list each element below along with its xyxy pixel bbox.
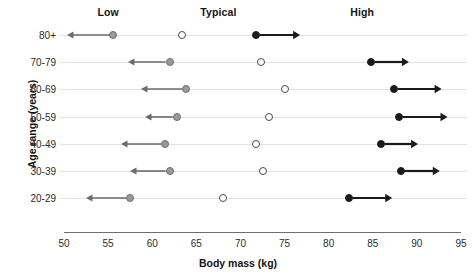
high-marker-40-49 [377,140,385,148]
typical-marker-60-69 [281,85,289,93]
typical-marker-30-39 [259,167,267,175]
typical-marker-40-49 [252,140,260,148]
high-marker-70-79 [367,58,375,66]
low-marker-80plus [109,31,117,39]
low-marker-70-79 [166,58,174,66]
low-marker-40-49 [161,140,169,148]
x-axis-tick-65: 65 [191,238,202,249]
typical-marker-80plus [178,31,186,39]
x-axis-title: Body mass (kg) [0,257,476,269]
high-marker-60-69 [390,85,398,93]
x-axis-tick-80: 80 [323,238,334,249]
body-mass-by-age-chart: LowTypicalHigh Age range (years) 80+70-7… [0,0,476,280]
low-marker-30-39 [166,167,174,175]
typical-marker-70-79 [257,58,265,66]
x-axis-tick-85: 85 [367,238,378,249]
row-gridline [60,198,467,199]
typical-marker-20-29 [219,194,227,202]
x-axis-tick-60: 60 [147,238,158,249]
high-marker-20-29 [345,194,353,202]
low-marker-20-29 [126,194,134,202]
high-marker-80plus [252,31,260,39]
x-axis-tick-95: 95 [455,238,466,249]
low-marker-60-69 [182,85,190,93]
x-axis-line [64,232,461,233]
x-axis-tick-55: 55 [103,238,114,249]
plot-area [0,0,476,232]
row-gridline [60,117,467,118]
row-gridline [60,144,467,145]
low-marker-50-59 [173,113,181,121]
row-gridline [60,89,467,90]
row-gridline [60,35,467,36]
x-axis-tick-50: 50 [58,238,69,249]
high-marker-30-39 [397,167,405,175]
x-axis-tick-70: 70 [235,238,246,249]
typical-marker-50-59 [265,113,273,121]
x-axis-tick-90: 90 [411,238,422,249]
high-marker-50-59 [395,113,403,121]
x-axis-tick-75: 75 [279,238,290,249]
